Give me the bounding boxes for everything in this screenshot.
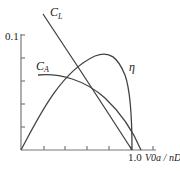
series-cl-curve xyxy=(43,14,132,150)
performance-chart: 0.1 C L C A η 1.0 V0a / nD xyxy=(0,0,180,171)
y-axis xyxy=(21,34,25,150)
x-axis xyxy=(21,146,156,150)
svg-text:L: L xyxy=(57,12,63,21)
cl-label: C L xyxy=(50,5,63,21)
x-tick-label: 1.0 xyxy=(128,151,142,163)
ca-label: C A xyxy=(36,59,49,74)
x-axis-label: V0a / nD xyxy=(145,152,180,163)
eta-label: η xyxy=(129,60,135,74)
y-tick-label: 0.1 xyxy=(5,30,19,42)
series-ca-curve xyxy=(38,75,141,150)
svg-text:A: A xyxy=(43,65,49,74)
